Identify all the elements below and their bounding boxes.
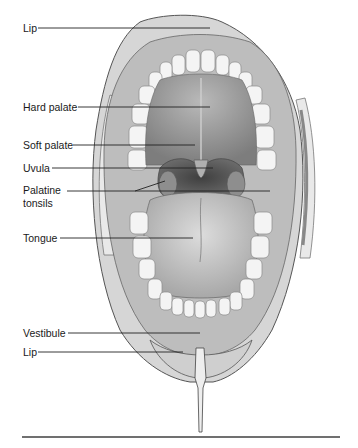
- frenulum-retractor: [195, 348, 206, 432]
- label-lip-upper: Lip: [23, 22, 37, 34]
- tonsil-left: [159, 171, 177, 197]
- label-lip-lower: Lip: [23, 346, 37, 358]
- label-palatine-tonsils-line1: Palatine: [23, 184, 61, 196]
- label-tongue: Tongue: [23, 232, 57, 244]
- mouth-illustration: [0, 0, 358, 448]
- tonsil-right: [227, 171, 245, 197]
- label-soft-palate: Soft palate: [23, 139, 73, 151]
- label-uvula: Uvula: [23, 162, 50, 174]
- oral-cavity-diagram: Lip Hard palate Soft palate Uvula Palati…: [0, 0, 358, 448]
- label-hard-palate: Hard palate: [23, 101, 77, 113]
- label-vestibule: Vestibule: [23, 327, 66, 339]
- label-palatine-tonsils-line2: tonsils: [23, 197, 53, 209]
